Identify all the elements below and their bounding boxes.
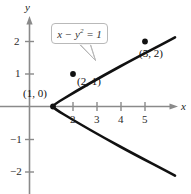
x-tick-label-5: 5 bbox=[142, 114, 148, 125]
parabola-figure: x − y2 = 1 y x 2 1 −1 −2 2 3 4 5 (1, 0) … bbox=[0, 0, 191, 194]
point-label-1-0: (1, 0) bbox=[23, 88, 47, 99]
point-label-2-1: (2, 1) bbox=[77, 76, 101, 87]
equation-exponent: 2 bbox=[80, 27, 84, 35]
equation-text: x − y2 = 1 bbox=[57, 28, 102, 40]
point-marker-1-0 bbox=[50, 104, 56, 110]
equation-callout: x − y2 = 1 bbox=[51, 23, 108, 44]
x-axis-label: x bbox=[181, 101, 186, 112]
y-tick-label-2: 2 bbox=[14, 36, 20, 47]
y-tick-label-neg2: −2 bbox=[10, 166, 22, 177]
y-tick-label-1: 1 bbox=[15, 68, 21, 79]
point-marker-2-1 bbox=[70, 71, 76, 77]
y-axis-label: y bbox=[25, 2, 30, 13]
x-axis bbox=[0, 102, 178, 111]
y-tick-label-neg1: −1 bbox=[10, 134, 22, 145]
y-axis bbox=[25, 16, 34, 194]
equation-lhs: x − y bbox=[57, 28, 80, 40]
equation-rhs: = 1 bbox=[86, 28, 102, 40]
x-tick-label-3: 3 bbox=[94, 114, 100, 125]
x-tick-label-4: 4 bbox=[118, 114, 124, 125]
point-marker-5-2 bbox=[142, 39, 148, 45]
callout-leader bbox=[79, 44, 96, 61]
x-tick-label-2: 2 bbox=[70, 114, 76, 125]
point-label-5-2: (5, 2) bbox=[139, 48, 163, 59]
